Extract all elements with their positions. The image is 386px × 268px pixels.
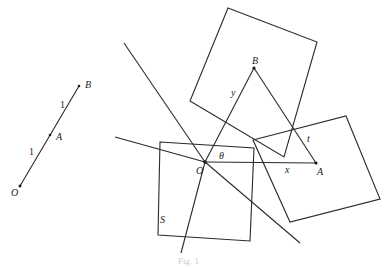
label-S: S [160,215,165,225]
segment-length-label-1: 1 [60,100,65,110]
label-O: O [196,166,203,176]
label-B-left: B [85,80,91,90]
label-A-left: A [56,132,62,142]
label-theta: θ [219,151,224,161]
label-B: B [252,56,258,66]
label-y: y [231,88,235,98]
label-t: t [307,134,310,144]
figure-caption: Fig. 1 [178,256,199,266]
label-A: A [317,167,323,177]
left-segment-diagram [19,85,81,188]
label-O-left: O [11,188,18,198]
rotated-squares-diagram [115,8,380,253]
label-x: x [285,165,289,175]
segment-length-label-2: 1 [29,147,34,157]
